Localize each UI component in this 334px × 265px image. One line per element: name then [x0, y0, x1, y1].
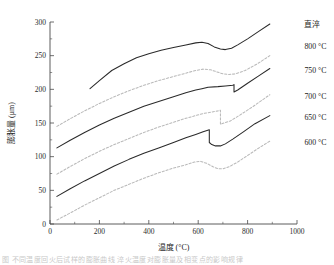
x-tick-label: 800 [242, 227, 254, 236]
expansion-curve-figure: 02004006008001000050100150200250300 直淬80… [0, 0, 334, 265]
series-label-2: 750 °C [304, 66, 326, 75]
x-tick-label: 200 [94, 227, 106, 236]
x-axis-title: 温度 (°C) [158, 242, 190, 252]
y-tick-label: 200 [35, 85, 47, 94]
y-tick-label: 100 [35, 152, 47, 161]
series-label-5: 600 °C [304, 138, 326, 147]
y-axis-title: 膨胀量 (μm) [6, 102, 16, 144]
y-tick-label: 150 [35, 119, 47, 128]
curves-layer [57, 24, 270, 220]
x-tick-label: 0 [48, 227, 52, 236]
series-label-1: 800 °C [304, 42, 326, 51]
y-tick-label: 250 [35, 51, 47, 60]
series-label-3: 700 °C [304, 92, 326, 101]
axes-layer: 02004006008001000050100150200250300 [35, 18, 305, 236]
series-label-4: 650 °C [304, 113, 326, 122]
x-tick-label: 1000 [290, 227, 305, 236]
series-labels-layer: 直淬800 °C750 °C700 °C650 °C600 °C [304, 19, 326, 147]
footer-caption-strip: 图 不同温度回火后试样的膨胀曲线 淬火温度对膨胀量及相变点的影响规律 [0, 256, 334, 265]
y-tick-label: 300 [35, 18, 47, 27]
series-curve-0 [90, 24, 270, 89]
y-tick-label: 0 [42, 220, 46, 229]
chart-canvas: 02004006008001000050100150200250300 直淬80… [0, 0, 334, 265]
axis-lines [50, 22, 297, 224]
y-tick-label: 50 [39, 186, 47, 195]
x-tick-label: 400 [143, 227, 155, 236]
x-tick-label: 600 [193, 227, 205, 236]
footer-caption-text: 图 不同温度回火后试样的膨胀曲线 淬火温度对膨胀量及相变点的影响规律 [0, 256, 334, 265]
series-label-0: 直淬 [304, 19, 320, 29]
series-curve-5 [57, 141, 270, 220]
